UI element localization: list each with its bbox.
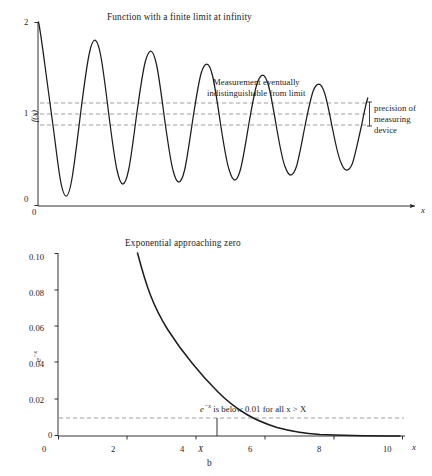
top-chart-reference-lines	[40, 103, 368, 125]
precision-bracket	[367, 102, 372, 126]
bottom-chart-axes	[55, 253, 406, 440]
figure-container: Function with a finite limit at infinity…	[0, 0, 432, 476]
exponential-decay-curve	[138, 253, 401, 436]
figure-vector-layer	[0, 0, 432, 476]
damped-oscillation-curve	[39, 22, 368, 196]
